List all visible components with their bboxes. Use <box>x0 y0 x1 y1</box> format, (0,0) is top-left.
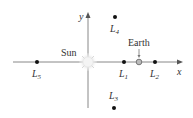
lagrange-point-l4: L4 <box>109 15 120 36</box>
sun: Sun <box>61 47 97 71</box>
x-axis-arrow-icon <box>177 60 183 65</box>
sun-label: Sun <box>61 47 77 58</box>
earth: Earth <box>128 37 150 65</box>
svg-text:L5: L5 <box>31 68 42 81</box>
lagrange-point-l1: L1 <box>118 60 128 81</box>
lagrange-diagram: x y Sun Earth L5 L1 L2 <box>0 0 193 118</box>
svg-text:L4: L4 <box>109 23 120 36</box>
svg-text:L2: L2 <box>149 68 160 81</box>
x-axis-label: x <box>176 66 182 77</box>
earth-label: Earth <box>128 37 150 48</box>
svg-text:L3: L3 <box>108 90 119 103</box>
y-axis-arrow-icon <box>86 12 91 18</box>
y-axis-label: y <box>78 11 84 22</box>
lagrange-point-l5: L5 <box>31 60 42 81</box>
lagrange-point-l3: L3 <box>108 90 119 110</box>
svg-text:L1: L1 <box>118 68 128 81</box>
lagrange-point-l2: L2 <box>149 60 160 81</box>
